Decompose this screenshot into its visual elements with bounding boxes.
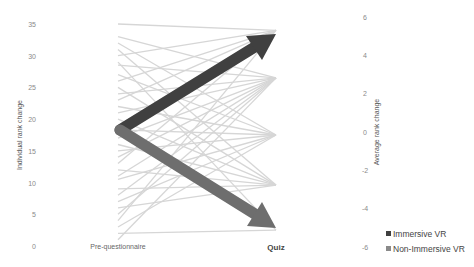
individual-line	[118, 230, 276, 233]
legend-label-immersive: Immersive VR	[393, 229, 446, 239]
left-tick: 20	[28, 116, 36, 123]
right-tick: -2	[362, 167, 368, 174]
left-tick: 15	[28, 148, 36, 155]
immersive-vr-arrow	[120, 34, 276, 130]
left-tick: 30	[28, 53, 36, 60]
left-axis-ticks: 35 30 25 20 15 10 5 0	[28, 21, 36, 250]
legend-item-non-immersive-vr: Non-Immersive VR	[386, 244, 465, 254]
right-tick: 0	[363, 129, 367, 136]
right-axis-title: Average rank change	[373, 99, 381, 166]
legend-item-immersive-vr: Immersive VR	[386, 229, 446, 239]
left-tick: 0	[32, 243, 36, 250]
rank-change-chart: 35 30 25 20 15 10 5 0 Individual rank ch…	[0, 0, 474, 267]
right-tick: -6	[362, 244, 368, 251]
left-tick: 35	[28, 21, 36, 28]
legend-swatch-immersive	[386, 231, 391, 236]
right-axis-ticks: 6 4 2 0 -2 -4 -6	[362, 14, 368, 251]
right-tick: 4	[363, 52, 367, 59]
right-tick: 6	[363, 14, 367, 21]
legend-swatch-non-immersive	[386, 246, 391, 251]
individual-line	[118, 24, 276, 30]
category-label-quiz: Quiz	[267, 243, 284, 252]
individual-line	[118, 78, 276, 176]
legend: Immersive VR Non-Immersive VR	[386, 229, 465, 254]
right-tick: -4	[362, 205, 368, 212]
legend-label-non-immersive: Non-Immersive VR	[393, 244, 465, 254]
category-label-pre-questionnaire: Pre-questionnaire	[90, 243, 145, 251]
left-axis-title: Individual rank change	[16, 100, 24, 170]
right-tick: 2	[363, 90, 367, 97]
left-tick: 5	[32, 211, 36, 218]
left-tick: 10	[28, 180, 36, 187]
left-tick: 25	[28, 84, 36, 91]
